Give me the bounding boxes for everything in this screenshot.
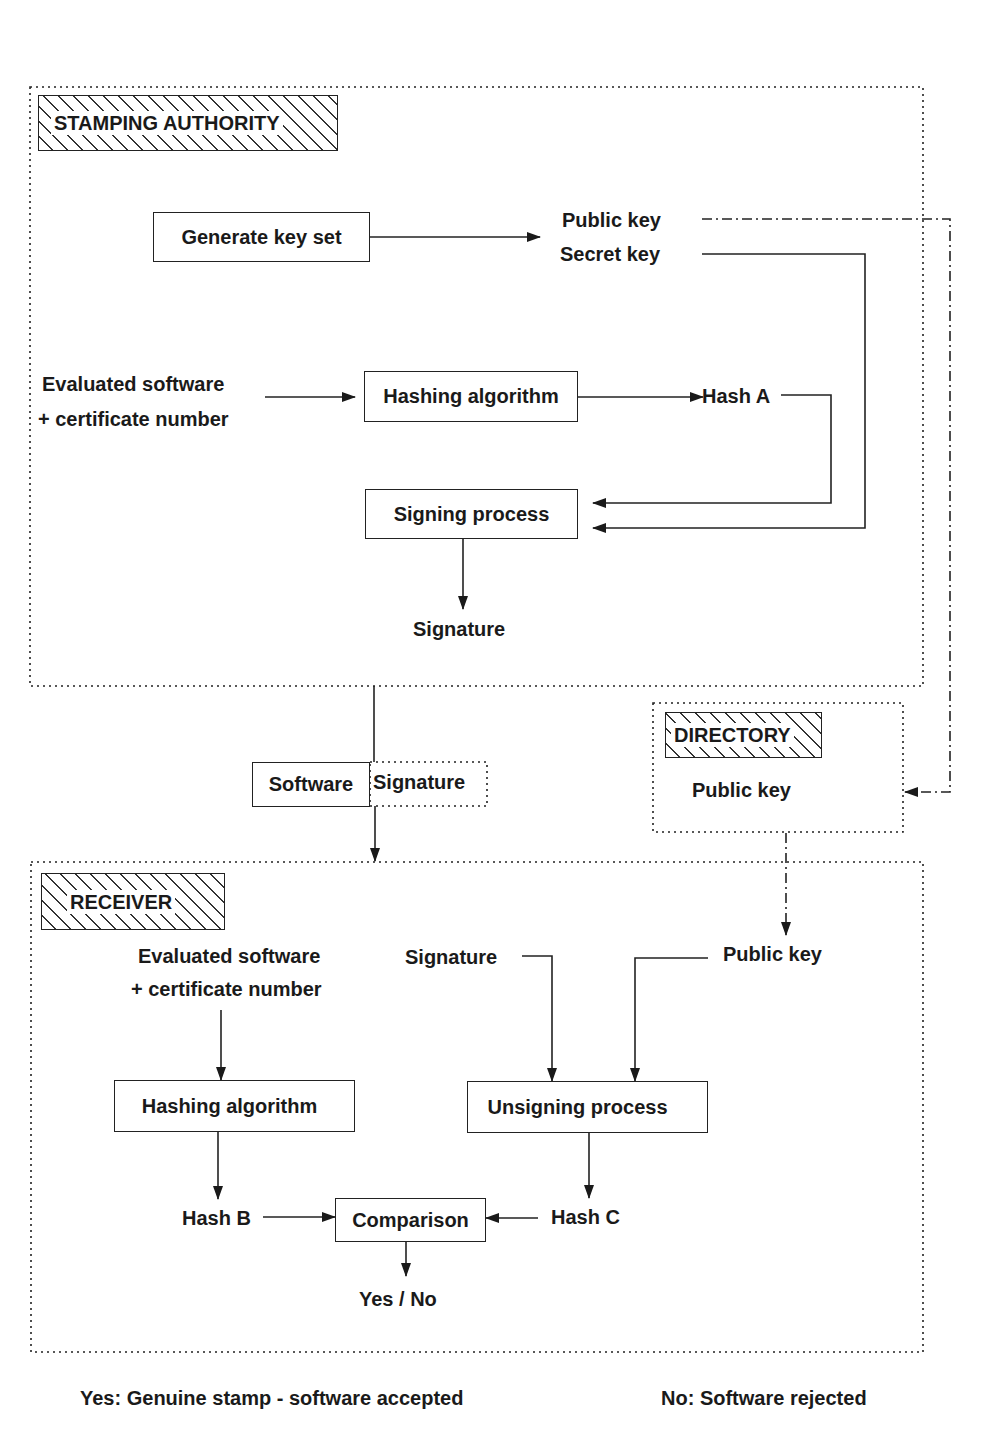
legend-no: No: Software rejected bbox=[661, 1386, 867, 1410]
hash-c-label: Hash C bbox=[551, 1205, 620, 1229]
yes-no-result-label: Yes / No bbox=[359, 1287, 437, 1311]
directory-public-key-label: Public key bbox=[692, 778, 791, 802]
generate-key-set-box: Generate key set bbox=[153, 212, 370, 262]
receiver-evaluated-software-label: Evaluated software bbox=[138, 944, 320, 968]
stamping-authority-title: STAMPING AUTHORITY bbox=[51, 111, 283, 135]
legend-yes: Yes: Genuine stamp - software accepted bbox=[80, 1386, 463, 1410]
signature-output-label: Signature bbox=[413, 617, 505, 641]
signature-packet-label: Signature bbox=[373, 770, 465, 794]
hash-b-label: Hash B bbox=[182, 1206, 251, 1230]
evaluated-software-label: Evaluated software bbox=[42, 372, 224, 396]
certificate-number-label: + certificate number bbox=[38, 407, 229, 431]
signing-process-box: Signing process bbox=[365, 489, 578, 539]
secret-key-label: Secret key bbox=[560, 242, 660, 266]
receiver-public-key-label: Public key bbox=[723, 942, 822, 966]
software-packet-box: Software bbox=[252, 762, 370, 807]
receiver-hashing-algorithm-box: Hashing algorithm bbox=[114, 1080, 355, 1132]
hash-a-label: Hash A bbox=[702, 384, 770, 408]
directory-title: DIRECTORY bbox=[671, 723, 794, 747]
receiver-signature-label: Signature bbox=[405, 945, 497, 969]
public-key-label: Public key bbox=[562, 208, 661, 232]
connector-layer bbox=[0, 0, 1004, 1437]
directory-title-banner: DIRECTORY bbox=[665, 712, 822, 758]
receiver-title: RECEIVER bbox=[67, 890, 175, 914]
unsigning-process-box: Unsigning process bbox=[467, 1081, 708, 1133]
receiver-certificate-number-label: + certificate number bbox=[131, 977, 322, 1001]
hashing-algorithm-box: Hashing algorithm bbox=[364, 371, 578, 422]
stamping-authority-title-banner: STAMPING AUTHORITY bbox=[38, 95, 338, 151]
comparison-box: Comparison bbox=[335, 1198, 486, 1242]
receiver-title-banner: RECEIVER bbox=[41, 873, 225, 930]
